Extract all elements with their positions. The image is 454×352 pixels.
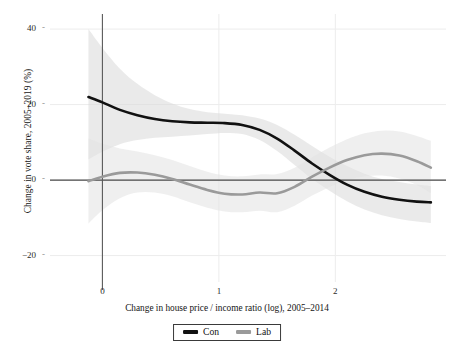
y-tick-label: 20- bbox=[0, 100, 36, 109]
y-tick-label: −20- bbox=[0, 251, 36, 260]
chart-legend: Con Lab bbox=[173, 324, 281, 341]
legend-item-con[interactable]: Con bbox=[183, 327, 219, 337]
chart-container: Change in vote share, 2005–2019 (%) Chan… bbox=[0, 0, 454, 352]
y-tick-mark: - bbox=[42, 250, 45, 259]
legend-label-lab: Lab bbox=[256, 327, 271, 337]
legend-label-con: Con bbox=[203, 327, 219, 337]
y-tick-label: 0- bbox=[0, 175, 36, 184]
y-tick-mark: - bbox=[42, 99, 45, 108]
legend-item-lab[interactable]: Lab bbox=[236, 327, 271, 337]
y-tick-label: 40- bbox=[0, 24, 36, 33]
x-tick-label: 0 bbox=[90, 287, 114, 296]
y-tick-mark: - bbox=[42, 174, 45, 183]
y-tick-mark: - bbox=[42, 23, 45, 32]
legend-swatch-lab bbox=[236, 330, 251, 334]
plot-area bbox=[0, 0, 454, 352]
x-tick-label: 1 bbox=[207, 287, 231, 296]
legend-swatch-con bbox=[183, 330, 198, 334]
x-tick-label: 2 bbox=[323, 287, 347, 296]
